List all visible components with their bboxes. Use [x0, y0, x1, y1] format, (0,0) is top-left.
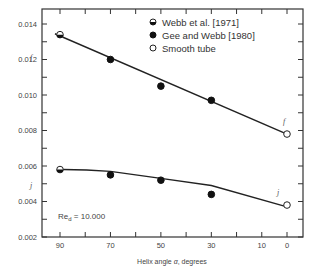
data-point — [57, 166, 64, 173]
legend-label: Smooth tube — [162, 43, 216, 54]
reynolds-annotation: Red = 10.000 — [58, 212, 106, 222]
lower-fit-line — [60, 170, 287, 207]
y-tick-label: 0.004 — [18, 197, 37, 206]
y-tick-label: 0.008 — [18, 126, 37, 135]
friction-factor-chart: 0.0020.0040.0060.0080.0100.0120.014 9070… — [0, 0, 311, 269]
y-tick-label: 0.012 — [18, 55, 37, 64]
legend-label: Webb et al. [1971] — [162, 17, 239, 28]
legend-marker-filled-circle-icon — [150, 32, 156, 38]
y-tick-label: 0.014 — [18, 20, 37, 29]
data-point — [158, 177, 165, 184]
legend-label: Gee and Webb [1980] — [162, 30, 255, 41]
y-axis-label-j: j — [29, 181, 33, 190]
y-tick-label: 0.002 — [18, 233, 37, 242]
data-point — [284, 202, 291, 209]
y-axis: 0.0020.0040.0060.0080.0100.0120.014 — [18, 20, 303, 242]
data-point — [208, 191, 215, 198]
data-point — [158, 83, 165, 90]
x-tick-label: 10 — [258, 241, 266, 250]
data-point — [107, 56, 114, 63]
y-tick-label: 0.010 — [18, 91, 37, 100]
line-label-f: f — [283, 117, 287, 126]
legend-marker-half-filled-circle-icon — [150, 19, 156, 25]
legend-marker-open-circle-icon — [150, 45, 156, 51]
fit-lines — [55, 34, 287, 207]
data-point — [208, 97, 215, 104]
x-tick-label: 30 — [207, 241, 215, 250]
y-tick-label: 0.006 — [18, 162, 37, 171]
data-point — [57, 31, 64, 38]
data-point — [107, 172, 114, 179]
data-point — [284, 131, 291, 138]
x-tick-label: 90 — [56, 241, 64, 250]
x-tick-label: 0 — [285, 241, 289, 250]
x-tick-label: 70 — [106, 241, 114, 250]
x-axis-title: Helix angle α, degrees — [137, 258, 207, 266]
line-label-j: j — [276, 188, 280, 197]
legend: Webb et al. [1971]Gee and Webb [1980]Smo… — [150, 17, 255, 54]
x-tick-label: 50 — [157, 241, 165, 250]
